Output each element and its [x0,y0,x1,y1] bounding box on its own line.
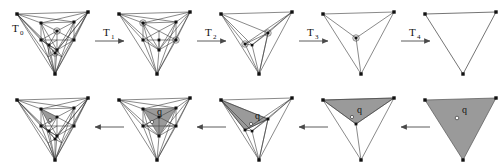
panel-q3: q [321,96,395,161]
query-point-q1 [150,120,153,123]
label-t4-sub: 4 [417,33,421,41]
figure-canvas: T 0 T 1 [0,0,502,164]
query-label-q3: q [357,104,362,115]
panel-t0: T 0 [12,10,90,75]
label-t1-sub: 1 [111,33,115,41]
panel-q2: q [219,96,293,161]
label-t0-sub: 0 [20,29,24,37]
triangulation-hierarchy-figure: T 0 T 1 [0,0,502,164]
arrow-t4: T 4 [401,26,430,41]
arrow-t2: T 2 [197,26,226,41]
panel-t1 [117,10,191,75]
shaded-cell-q2 [221,100,268,130]
top-row-group: T 0 T 1 [12,10,498,75]
label-t3-sub: 3 [315,33,319,41]
panel-q1: q [117,96,191,161]
query-label-q1: q [157,106,162,117]
label-t2-sub: 2 [213,33,217,41]
vertex-dots-t3 [321,10,395,75]
arrow-t1: T 1 [95,26,124,41]
label-t4-base: T [409,26,416,38]
label-t0-base: T [12,22,19,34]
vertex-dots-t4 [423,10,497,75]
query-point-q0 [49,119,52,122]
label-t2-base: T [205,26,212,38]
query-point-q2 [249,122,252,125]
panel-t2 [219,10,293,75]
panel-q0 [15,96,89,161]
query-point-q3 [350,115,353,118]
shaded-cell-q4 [425,98,496,160]
bottom-row-group: q [15,96,497,161]
label-t3-base: T [307,26,314,38]
query-point-q4 [455,116,459,120]
label-t1-base: T [103,26,110,38]
arrow-t3: T 3 [299,26,328,41]
panel-t4 [423,10,497,75]
panel-q4: q [423,96,497,161]
panel-t3 [321,10,395,75]
query-label-q4: q [462,104,467,115]
query-label-q2: q [255,110,260,121]
